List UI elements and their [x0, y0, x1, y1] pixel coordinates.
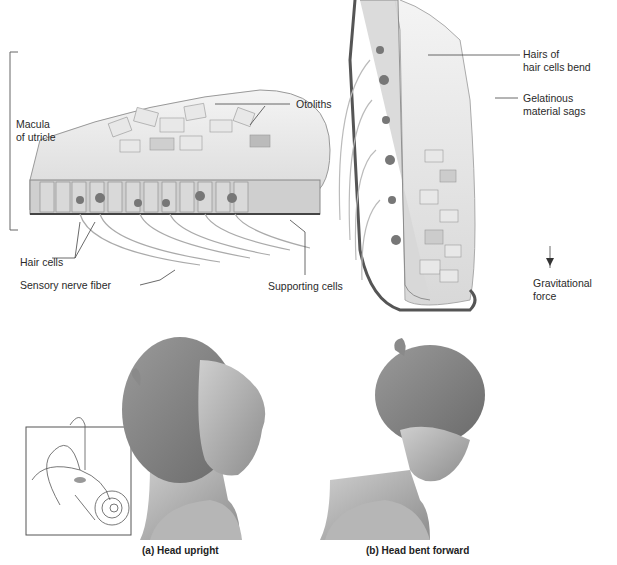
label-gelatinous-material-sags: Gelatinous material sags: [523, 92, 585, 117]
label-otoliths: Otoliths: [296, 98, 332, 111]
label-hair-cells: Hair cells: [20, 256, 63, 269]
head-upright-illustration: [122, 337, 265, 540]
label-supporting-cells: Supporting cells: [268, 280, 343, 293]
label-macula-of-utricle: Macula of utricle: [16, 118, 56, 143]
caption-head-bent-forward: (b) Head bent forward: [366, 545, 469, 556]
label-sensory-nerve-fiber: Sensory nerve fiber: [20, 279, 111, 292]
inner-ear-inset: [26, 418, 131, 536]
macula-tilted-illustration: [339, 0, 554, 310]
label-hairs-of-hair-cells-bend: Hairs of hair cells bend: [523, 48, 591, 73]
head-bent-forward-illustration: [320, 338, 485, 540]
label-gravitational-force: Gravitational force: [533, 277, 592, 302]
macula-upright-illustration: [10, 52, 330, 285]
caption-head-upright: (a) Head upright: [142, 545, 219, 556]
